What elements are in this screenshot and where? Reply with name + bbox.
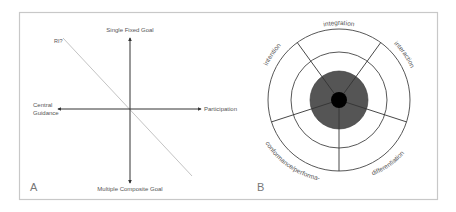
axis-label-right: Participation (204, 106, 237, 112)
segment-label-differentiation: differentiation (370, 149, 405, 176)
axis-label-bottom: Multiple Composite Goal (97, 186, 162, 192)
panel-b-letter: B (257, 181, 264, 193)
diagonal-label: RI? (54, 38, 63, 44)
diagonal-line (63, 38, 192, 176)
panel-a: Single Fixed Goal Multiple Composite Goa… (30, 27, 237, 193)
axis-label-top: Single Fixed Goal (106, 27, 153, 33)
segment-label-interaction: interaction (393, 39, 416, 69)
segment-label-intention: intention (262, 41, 282, 66)
panel-a-letter: A (30, 181, 38, 193)
segment-label-integration: integration (323, 19, 356, 28)
figure-canvas: Single Fixed Goal Multiple Composite Goa… (0, 0, 456, 212)
axis-label-left-line1: Central (33, 102, 52, 108)
core-dot (331, 92, 347, 108)
axis-label-left-line2: Guidance (33, 110, 59, 116)
segment-label-conformance: conformance/performa- (264, 140, 320, 182)
panel-b: integration integration interaction inte… (257, 19, 416, 193)
